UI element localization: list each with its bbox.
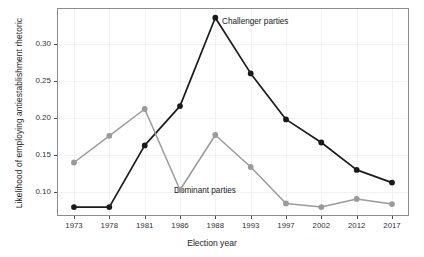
y-tick-mark (54, 155, 57, 156)
gridline-vertical (215, 9, 216, 215)
x-tick-label: 1997 (277, 221, 294, 230)
gridline-vertical (286, 9, 287, 215)
y-axis-title: Likelihood of employing antiestablishmen… (14, 0, 24, 228)
x-tick-label: 1978 (101, 221, 118, 230)
gridline-vertical (357, 9, 358, 215)
x-tick-mark (74, 216, 75, 219)
y-tick-mark (54, 44, 57, 45)
y-tick-mark (54, 192, 57, 193)
x-tick-mark (215, 216, 216, 219)
x-tick-label: 1993 (242, 221, 259, 230)
x-tick-label: 1973 (65, 221, 82, 230)
x-tick-label: 1986 (171, 221, 188, 230)
x-tick-mark (321, 216, 322, 219)
gridline-vertical (251, 9, 252, 215)
y-tick-label: 0.30 (35, 39, 51, 48)
x-tick-mark (251, 216, 252, 219)
x-tick-mark (357, 216, 358, 219)
y-tick-label: 0.10 (35, 187, 51, 196)
gridline-horizontal (58, 81, 408, 82)
y-tick-mark (54, 81, 57, 82)
gridline-horizontal (58, 118, 408, 119)
x-tick-mark (145, 216, 146, 219)
gridline-horizontal (58, 44, 408, 45)
gridline-vertical (145, 9, 146, 215)
gridline-vertical (109, 9, 110, 215)
y-tick-label: 0.20 (35, 113, 51, 122)
series-annotation-label: Dominant parties (174, 186, 236, 195)
gridline-vertical (180, 9, 181, 215)
x-tick-label: 1988 (207, 221, 224, 230)
chart-figure: Likelihood of employing antiestablishmen… (0, 0, 424, 257)
gridline-vertical (321, 9, 322, 215)
gridline-horizontal (58, 155, 408, 156)
x-tick-label: 2002 (313, 221, 330, 230)
x-tick-mark (392, 216, 393, 219)
x-tick-label: 1981 (136, 221, 153, 230)
x-tick-mark (180, 216, 181, 219)
x-tick-label: 2012 (348, 221, 365, 230)
series-annotation-label: Challenger parties (222, 17, 288, 26)
x-axis-title: Election year (0, 238, 424, 248)
y-tick-label: 0.25 (35, 76, 51, 85)
gridline-vertical (392, 9, 393, 215)
gridline-vertical (74, 9, 75, 215)
y-tick-label: 0.15 (35, 150, 51, 159)
x-tick-mark (286, 216, 287, 219)
x-tick-mark (109, 216, 110, 219)
x-tick-label: 2017 (383, 221, 400, 230)
y-tick-mark (54, 118, 57, 119)
